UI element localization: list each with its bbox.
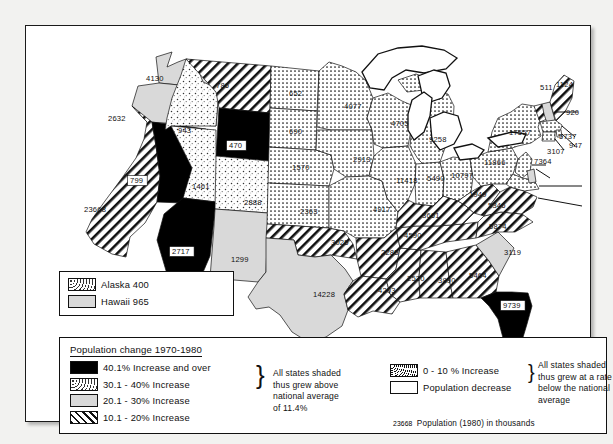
state-value-nc: 5874 [489, 222, 507, 231]
state-value-ri: 947 [569, 141, 582, 150]
state-DE [527, 169, 536, 183]
state-value-ny: 17557 [509, 128, 531, 137]
state-value-me: 1124 [556, 80, 573, 89]
state-value-wv: 1949 [469, 190, 487, 199]
state-value-nm: 1299 [231, 255, 249, 264]
hawaii-label: Hawaii 965 [101, 296, 149, 307]
note-line: thus grew above [273, 380, 341, 392]
state-value-il: 11418 [396, 176, 418, 185]
alaska-label: Alaska 400 [101, 279, 149, 290]
legend-item-label: 0 - 10 % Increase [423, 365, 499, 376]
alaska-row: Alaska 400 [68, 278, 233, 291]
map-page: 4130263223668799943786470146127172888129… [0, 0, 613, 444]
state-value-mt: 786 [216, 81, 229, 90]
state-value-fl: 9739 [503, 301, 521, 310]
state-value-nj: 7364 [534, 157, 552, 166]
legend-item: 10.1 - 20% Increase [70, 411, 211, 424]
state-value-sd: 690 [289, 127, 302, 136]
alaska-swatch [68, 278, 96, 291]
state-value-az: 2717 [172, 247, 190, 256]
state-value-vt: 511 [540, 83, 553, 92]
swatch-grey [70, 394, 98, 407]
left-brace: } [256, 362, 265, 388]
note-line: All states shaded [538, 360, 612, 372]
state-value-ky: 3661 [422, 211, 440, 220]
state-value-la: 4203 [378, 286, 396, 295]
state-value-or: 2632 [108, 114, 126, 123]
note-line: national average [273, 391, 341, 403]
legend-item-label: 10.1 - 20% Increase [103, 412, 190, 423]
legend-title: Population change 1970-1980 [70, 344, 202, 357]
state-value-al: 3890 [438, 276, 456, 285]
state-value-ms: 2520 [407, 274, 425, 283]
state-value-mn: 4077 [344, 102, 362, 111]
state-value-mi: 9258 [429, 135, 447, 144]
state-value-ne: 1570 [292, 163, 310, 172]
state-value-ok: 3025 [331, 238, 349, 247]
legend-item: 30.1 - 40% Increase [70, 378, 211, 391]
legend-left-note: All states shaded thus grew above nation… [273, 368, 341, 414]
map-frame: 4130263223668799943786470146127172888129… [25, 25, 591, 422]
hawaii-row: Hawaii 965 [68, 295, 233, 308]
alaska-hawaii-box: Alaska 400 Hawaii 965 [59, 271, 234, 316]
swatch-fine-dot [390, 364, 418, 377]
state-KS [267, 183, 329, 228]
legend-item-label: 20.1 - 30% Increase [103, 395, 190, 406]
legend-item: Population decrease [390, 381, 511, 394]
footnote-number: 23668 [393, 420, 412, 427]
state-value-nd: 652 [289, 89, 302, 98]
state-WY [216, 108, 270, 161]
state-value-oh: 10797 [451, 171, 473, 180]
legend-item-label: 30.1 - 40% Increase [103, 379, 190, 390]
note-line: below the national [538, 383, 612, 395]
state-value-ca: 23668 [84, 205, 106, 214]
hawaii-swatch [68, 295, 96, 308]
legend-item-label: Population decrease [423, 382, 511, 393]
note-line: of 11.4% [273, 403, 341, 415]
legend-item: 40.1% Increase and over [70, 361, 211, 374]
state-value-ut: 1461 [192, 182, 210, 191]
state-value-ma: 5737 [559, 132, 577, 141]
swatch-hatch [70, 411, 98, 424]
state-value-pa: 11866 [484, 158, 506, 167]
swatch-white [390, 381, 418, 394]
state-value-wi: 4705 [391, 119, 409, 128]
legend-item: 20.1 - 30% Increase [70, 394, 211, 407]
state-value-va: 5346 [488, 201, 506, 210]
state-value-sc: 3119 [504, 248, 521, 257]
note-line: average [538, 395, 612, 407]
state-value-nv: 799 [130, 176, 143, 185]
state-value-nh: 920 [566, 108, 579, 117]
legend-right-note: All states shaded thus grew at a rate be… [538, 360, 612, 406]
state-value-ks: 2363 [300, 207, 318, 216]
state-CT [542, 132, 555, 141]
state-value-ia: 2913 [353, 155, 371, 164]
right-brace: } [528, 362, 535, 382]
legend-footnote: 23668 Population (1980) in thousands [393, 412, 535, 430]
state-value-tn: 4590 [404, 231, 422, 240]
state-value-co: 2888 [244, 198, 262, 207]
state-value-ct: 3107 [547, 147, 565, 156]
state-value-mo: 4917 [373, 205, 391, 214]
legend-item-label: 40.1% Increase and over [103, 362, 211, 373]
swatch-black [70, 361, 98, 374]
legend-box: Population change 1970-1980 40.1% Increa… [59, 337, 607, 434]
legend-left-items: 40.1% Increase and over 30.1 - 40% Incre… [70, 361, 211, 427]
state-value-id: 943 [178, 126, 191, 135]
note-line: All states shaded [273, 368, 341, 380]
note-line: thus grew at a rate [538, 372, 612, 384]
state-value-ga: 5464 [469, 271, 487, 280]
state-value-ar: 2285 [381, 248, 399, 257]
state-CA [86, 106, 160, 257]
state-value-in: 5490 [427, 174, 445, 183]
state-value-wa: 4130 [146, 74, 164, 83]
legend-item: 0 - 10 % Increase [390, 364, 511, 377]
state-value-wy: 470 [229, 141, 242, 150]
footnote-text: Population (1980) in thousands [417, 419, 535, 428]
legend-right-items: 0 - 10 % Increase Population decrease [390, 364, 511, 397]
swatch-coarse-stipple [70, 378, 98, 391]
state-value-tx: 14228 [313, 290, 335, 299]
